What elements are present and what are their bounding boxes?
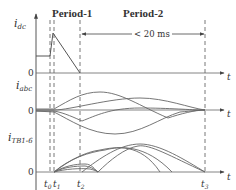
duration-arrow: < 20 ms bbox=[82, 29, 204, 39]
abc-xlabel: t bbox=[227, 109, 231, 119]
tb-ylabel: iTB1-6 bbox=[8, 131, 33, 145]
tb-waveforms bbox=[54, 144, 205, 172]
time-marker-labels: t0 t1 t2 t3 bbox=[44, 179, 209, 190]
abc-waveforms bbox=[36, 92, 205, 134]
period-2-title: Period-2 bbox=[123, 7, 164, 19]
waveform-diagram: Period-1 Period-2 < 20 ms idc 0 t iabc 0… bbox=[0, 0, 236, 190]
dc-xlabel: t bbox=[227, 72, 231, 82]
tb-zero-label: 0 bbox=[28, 167, 34, 177]
dc-ylabel: idc bbox=[14, 17, 26, 31]
abc-ylabel: iabc bbox=[16, 79, 32, 93]
t3-label: t3 bbox=[201, 179, 209, 190]
dc-zero-label: 0 bbox=[28, 68, 34, 78]
duration-label: < 20 ms bbox=[134, 29, 170, 39]
t1-label: t1 bbox=[53, 179, 60, 190]
t2-label: t2 bbox=[77, 179, 85, 190]
t0-label: t0 bbox=[44, 179, 52, 190]
abc-zero-label: 0 bbox=[28, 106, 34, 116]
dc-waveform bbox=[36, 33, 80, 73]
period-1-title: Period-1 bbox=[52, 7, 92, 19]
tb-xlabel: t bbox=[227, 172, 231, 182]
tb-current-panel: iTB1-6 0 t bbox=[8, 131, 231, 182]
dc-current-panel: idc 0 t bbox=[14, 17, 231, 82]
abc-current-panel: iabc 0 t bbox=[16, 79, 231, 134]
